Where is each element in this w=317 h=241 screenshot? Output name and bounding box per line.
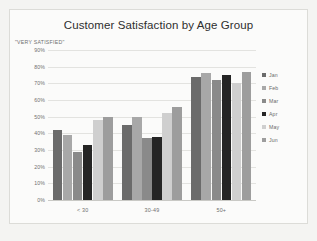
- y-axis-tick: 20%: [34, 164, 45, 170]
- bar[interactable]: [122, 125, 132, 200]
- bar[interactable]: [162, 113, 172, 200]
- y-axis-tick: 80%: [34, 64, 45, 70]
- bar-group: [187, 50, 256, 200]
- y-axis-tick: 60%: [34, 97, 45, 103]
- legend-item[interactable]: Jun: [262, 133, 302, 146]
- legend-swatch-icon: [262, 99, 266, 103]
- bar[interactable]: [212, 80, 222, 200]
- legend-swatch-icon: [262, 86, 266, 90]
- y-axis-tick: 40%: [34, 130, 45, 136]
- x-axis-label: < 30: [48, 200, 117, 220]
- bar[interactable]: [83, 145, 93, 200]
- bar[interactable]: [172, 107, 182, 200]
- plot-canvas: [48, 50, 256, 200]
- y-axis-tick: 0%: [37, 197, 45, 203]
- legend-label: Jan: [269, 72, 278, 78]
- legend-swatch-icon: [262, 138, 266, 142]
- bar[interactable]: [53, 130, 63, 200]
- bar[interactable]: [201, 73, 211, 200]
- legend-item[interactable]: Apr: [262, 107, 302, 120]
- legend-item[interactable]: Feb: [262, 81, 302, 94]
- legend-label: Feb: [269, 85, 278, 91]
- legend-item[interactable]: May: [262, 120, 302, 133]
- legend-item[interactable]: Mar: [262, 94, 302, 107]
- y-axis-tick: 50%: [34, 114, 45, 120]
- legend-label: Jun: [269, 137, 278, 143]
- bar[interactable]: [142, 138, 152, 200]
- chart-card: Customer Satisfaction by Age Group "VERY…: [9, 9, 308, 224]
- bar[interactable]: [152, 137, 162, 200]
- bar[interactable]: [242, 72, 252, 200]
- y-axis-note: "VERY SATISFIED": [15, 39, 64, 45]
- bar[interactable]: [191, 77, 201, 200]
- bar[interactable]: [73, 152, 83, 200]
- legend-item[interactable]: Jan: [262, 68, 302, 81]
- y-axis-tick: 10%: [34, 180, 45, 186]
- x-axis: < 3030-4950+: [48, 200, 256, 220]
- bar[interactable]: [103, 117, 113, 200]
- bar[interactable]: [132, 117, 142, 200]
- bar[interactable]: [63, 135, 73, 200]
- x-axis-label: 50+: [187, 200, 256, 220]
- bar[interactable]: [222, 75, 232, 200]
- legend-swatch-icon: [262, 112, 266, 116]
- legend-swatch-icon: [262, 125, 266, 129]
- bar[interactable]: [232, 83, 242, 200]
- chart-legend: JanFebMarAprMayJun: [262, 68, 302, 146]
- y-axis-tick: 30%: [34, 147, 45, 153]
- bar[interactable]: [93, 120, 103, 200]
- x-axis-label: 30-49: [117, 200, 186, 220]
- legend-swatch-icon: [262, 73, 266, 77]
- chart-title: Customer Satisfaction by Age Group: [10, 19, 307, 31]
- y-axis-tick: 70%: [34, 80, 45, 86]
- legend-label: Mar: [269, 98, 278, 104]
- legend-label: May: [269, 124, 279, 130]
- bar-groups: [48, 50, 256, 200]
- y-axis-tick: 90%: [34, 47, 45, 53]
- legend-label: Apr: [269, 111, 278, 117]
- bar-group: [117, 50, 186, 200]
- y-axis: 0%10%20%30%40%50%60%70%80%90%: [10, 50, 48, 200]
- bar-group: [48, 50, 117, 200]
